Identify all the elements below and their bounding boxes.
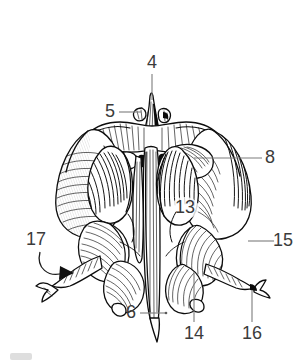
label-13: 13	[175, 197, 195, 217]
inferior-lobe-left	[104, 261, 145, 316]
label-5: 5	[105, 101, 115, 121]
scan-artifact	[10, 353, 32, 360]
label-4: 4	[147, 52, 157, 72]
ala-crista-galli-left	[133, 108, 146, 121]
label-14: 14	[184, 323, 204, 343]
label-8: 8	[265, 147, 275, 167]
label-17: 17	[26, 229, 46, 249]
ala-crista-galli-right	[158, 109, 170, 123]
bone-illustration	[36, 93, 270, 342]
label-15: 15	[273, 230, 293, 250]
ethmoid-bone-drawing: 4 5 8 13 15 17 6 14 16	[0, 0, 307, 364]
uncinate-process-left	[36, 256, 102, 302]
anatomical-figure: 4 5 8 13 15 17 6 14 16	[0, 0, 307, 364]
vomer-groove-strut	[133, 156, 143, 263]
label-6: 6	[126, 302, 136, 322]
label-16: 16	[242, 323, 262, 343]
